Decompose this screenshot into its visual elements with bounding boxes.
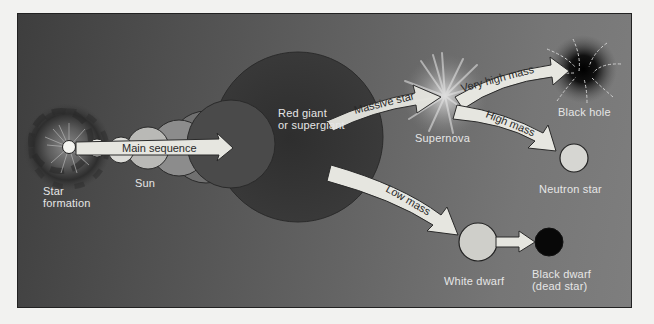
star-formation-label: Star formation — [43, 185, 91, 209]
black-dwarf-circle — [535, 228, 563, 256]
supernova-label: Supernova — [415, 132, 470, 144]
main-sequence-stars — [88, 52, 383, 222]
black-dwarf-label: Black dwarf (dead star) — [532, 268, 591, 292]
red-giant-label: Red giant or supergiant — [278, 107, 345, 131]
stellar-evolution-diagram: Main sequence Massive star Very high mas… — [17, 13, 632, 308]
main-sequence-arrow-label: Main sequence — [122, 142, 197, 154]
black-hole-label: Black hole — [558, 106, 611, 118]
white-dwarf-label: White dwarf — [444, 275, 504, 287]
white-dwarf-circle — [459, 223, 497, 261]
sun-label: Sun — [135, 177, 155, 189]
diagram-canvas: Main sequence Massive star Very high mas… — [18, 14, 632, 308]
cooling-arrow — [496, 231, 535, 252]
neutron-star-circle — [560, 144, 588, 172]
neutron-star-label: Neutron star — [539, 183, 602, 195]
